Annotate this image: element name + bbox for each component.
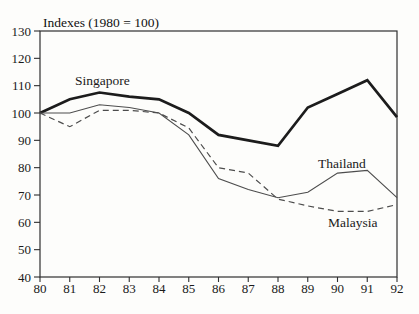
y-tick-label: 40 xyxy=(18,270,31,285)
plot-border xyxy=(40,31,397,277)
x-tick-label: 92 xyxy=(391,281,404,296)
x-tick-label: 85 xyxy=(182,281,195,296)
y-tick-label: 50 xyxy=(18,242,31,257)
y-tick-label: 80 xyxy=(18,160,31,175)
x-tick-label: 81 xyxy=(63,281,76,296)
x-tick-label: 87 xyxy=(242,281,256,296)
x-tick-label: 80 xyxy=(34,281,47,296)
series-label-malaysia: Malaysia xyxy=(328,215,378,230)
series-label-thailand: Thailand xyxy=(318,156,366,171)
chart-title: Indexes (1980 = 100) xyxy=(43,15,159,30)
x-tick-label: 90 xyxy=(331,281,344,296)
y-tick-label: 60 xyxy=(18,215,31,230)
x-tick-label: 82 xyxy=(93,281,106,296)
series-line-thailand xyxy=(40,105,397,198)
x-tick-label: 86 xyxy=(212,281,226,296)
y-tick-label: 90 xyxy=(18,133,31,148)
x-tick-label: 84 xyxy=(153,281,167,296)
chart-figure: Indexes (1980 = 100) 4050607080901001101… xyxy=(0,0,419,314)
x-tick-label: 88 xyxy=(272,281,285,296)
series-label-singapore: Singapore xyxy=(75,73,130,88)
line-chart: Indexes (1980 = 100) 4050607080901001101… xyxy=(0,0,419,314)
y-tick-label: 110 xyxy=(12,78,31,93)
x-tick-label: 91 xyxy=(361,281,374,296)
y-tick-label: 130 xyxy=(12,24,32,39)
y-tick-label: 120 xyxy=(12,51,32,66)
y-tick-label: 100 xyxy=(12,106,32,121)
x-tick-label: 89 xyxy=(301,281,314,296)
x-tick-label: 83 xyxy=(123,281,136,296)
plot-area: 4050607080901001101201308081828384858687… xyxy=(12,24,404,297)
y-tick-label: 70 xyxy=(18,188,31,203)
